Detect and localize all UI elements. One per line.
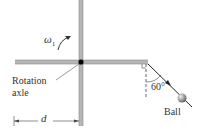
- axle-label-line1: Rotation: [12, 75, 46, 87]
- omega-subscript: 1: [52, 40, 56, 48]
- ball-label: Ball: [164, 107, 181, 117]
- rotating-apparatus-diagram: ω1 Rotation axle 60° Ball d: [0, 0, 203, 131]
- distance-label: d: [41, 113, 47, 124]
- angle-label: 60°: [151, 82, 165, 92]
- ball: [178, 94, 187, 103]
- rotation-axle-label: Rotation axle: [12, 75, 46, 99]
- right-angle-marker: [142, 64, 146, 68]
- axle-point: [78, 59, 83, 64]
- omega-symbol: ω: [44, 33, 52, 45]
- axle-leader-line: [56, 64, 79, 80]
- angular-velocity-label: ω1: [44, 34, 55, 48]
- rotation-arrow-icon: [58, 36, 71, 50]
- axle-label-line2: axle: [12, 87, 46, 99]
